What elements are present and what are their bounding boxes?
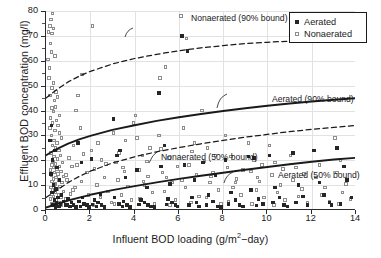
y-tick-label: 0 xyxy=(12,204,38,214)
legend-label-aerated: Aerated xyxy=(304,17,336,27)
x-tick-label: 4 xyxy=(119,213,149,223)
filled-square-icon xyxy=(295,20,299,24)
x-tick-label: 2 xyxy=(74,213,104,223)
x-tick-label: 10 xyxy=(251,213,281,223)
chart-legend: Aerated Nonaerated xyxy=(289,12,367,43)
y-tick-minor xyxy=(42,73,45,74)
y-tick xyxy=(41,86,45,87)
x-tick-label: 12 xyxy=(296,213,326,223)
legend-item-nonaerated: Nonaerated xyxy=(295,28,366,40)
boundary-curve xyxy=(46,158,355,208)
annotation-aerated-50: Aerated (50% bound) xyxy=(278,170,360,180)
annotation-nonaerated-50: Nonaerated (50% bound) xyxy=(161,152,258,162)
y-tick xyxy=(41,61,45,62)
open-square-icon xyxy=(295,32,299,36)
y-tick-minor xyxy=(42,148,45,149)
y-tick-label: 40 xyxy=(12,105,38,115)
chart-figure: Effluent BOD concentration (mg/l) Influe… xyxy=(0,0,381,258)
annotation-nonaerated-90: Nonaerated (90% bound) xyxy=(191,13,288,23)
legend-item-aerated: Aerated xyxy=(295,16,366,28)
y-tick-minor xyxy=(42,123,45,124)
boundary-curve xyxy=(46,38,355,98)
y-tick-minor xyxy=(42,23,45,24)
y-tick xyxy=(41,135,45,136)
x-tick-label: 14 xyxy=(340,213,370,223)
y-tick xyxy=(41,111,45,112)
x-axis-title: Influent BOD loading (g/m2−day) xyxy=(0,231,381,245)
y-tick-label: 50 xyxy=(12,80,38,90)
x-tick-label: 8 xyxy=(207,213,237,223)
legend-label-nonaerated: Nonaerated xyxy=(304,29,352,39)
y-tick-label: 70 xyxy=(12,30,38,40)
boundary-curve xyxy=(46,98,355,155)
y-tick-minor xyxy=(42,173,45,174)
y-tick-minor xyxy=(42,98,45,99)
y-tick-minor xyxy=(42,48,45,49)
y-tick xyxy=(41,210,45,211)
x-axis-title-head: Influent BOD loading (g/m xyxy=(113,233,237,245)
y-tick-label: 10 xyxy=(12,179,38,189)
x-axis-title-tail: −day) xyxy=(241,233,268,245)
y-tick-label: 20 xyxy=(12,154,38,164)
x-tick-label: 6 xyxy=(163,213,193,223)
y-tick-label: 30 xyxy=(12,129,38,139)
y-tick xyxy=(41,36,45,37)
y-tick xyxy=(41,160,45,161)
y-tick xyxy=(41,11,45,12)
y-tick-label: 60 xyxy=(12,55,38,65)
x-tick-label: 0 xyxy=(30,213,60,223)
annotation-aerated-90: Aerated (90% bound) xyxy=(272,94,354,104)
y-tick-label: 80 xyxy=(12,5,38,15)
y-tick-minor xyxy=(42,198,45,199)
y-tick xyxy=(41,185,45,186)
